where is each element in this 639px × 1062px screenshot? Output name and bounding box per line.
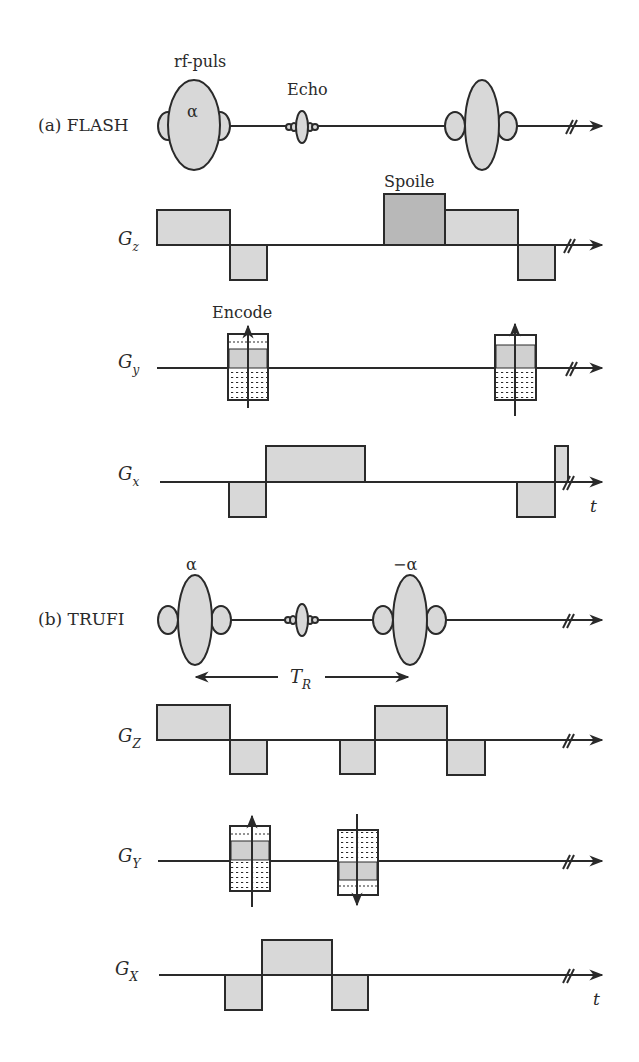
- echo-signal: [285, 604, 318, 636]
- gy-label: Gy: [118, 351, 139, 377]
- echo-label: Echo: [287, 80, 328, 99]
- flash-section: (a) FLASH rf-puls Echo α Gz: [38, 52, 602, 517]
- spoiler-label: Spoile: [384, 172, 435, 191]
- flash-title: (a) FLASH: [38, 115, 129, 135]
- gz-label: Gz: [118, 228, 139, 254]
- gy-label: GY: [118, 845, 141, 871]
- alpha-symbol: α: [187, 102, 198, 121]
- rf-pulse-alpha: [158, 575, 231, 665]
- trufi-title: (b) TRUFI: [38, 609, 125, 629]
- gx-readout: [160, 446, 602, 517]
- alpha-label: α: [186, 555, 197, 574]
- rf-pulse-alpha-2: [445, 80, 517, 170]
- rf-pulse-neg-alpha: [373, 575, 446, 665]
- trufi-section: (b) TRUFI α −α TR GZ: [38, 555, 602, 1010]
- rf-pulse-label: rf-puls: [174, 52, 226, 71]
- gz-gradient: [157, 705, 602, 775]
- gx-label: Gx: [118, 463, 139, 489]
- spoiler-lobe: [384, 194, 445, 245]
- tr-interval: TR: [196, 666, 408, 692]
- gz-gradient: [157, 194, 602, 280]
- gy-phase-encode: [158, 814, 602, 907]
- gy-phase-encode: [157, 324, 602, 416]
- time-axis-label: t: [590, 496, 597, 516]
- gx-label: GX: [115, 958, 138, 984]
- tr-label: TR: [290, 666, 311, 692]
- neg-alpha-label: −α: [393, 555, 417, 574]
- encode-label: Encode: [212, 303, 272, 322]
- gx-readout: [159, 940, 602, 1010]
- pulse-sequence-diagram: (a) FLASH rf-puls Echo α Gz: [0, 0, 639, 1062]
- echo-signal: [286, 111, 318, 143]
- gz-label: GZ: [118, 725, 141, 751]
- rf-pulse-alpha: α: [158, 80, 230, 170]
- time-axis-label: t: [593, 989, 600, 1009]
